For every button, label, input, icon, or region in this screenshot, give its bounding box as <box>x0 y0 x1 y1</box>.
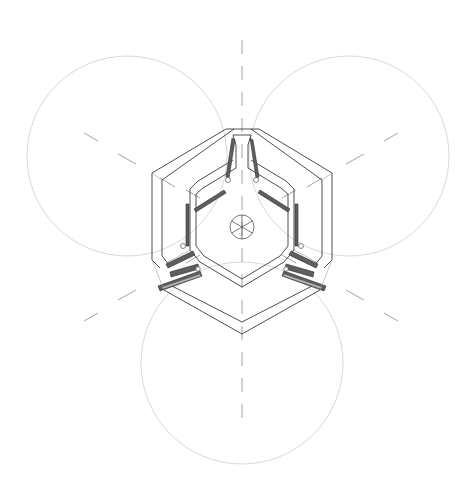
inner-frame-left <box>162 129 234 266</box>
corner-joint-ul <box>152 173 162 180</box>
axis-tick-lower-left-2 <box>118 290 136 300</box>
hinge-lower-right <box>284 267 289 272</box>
axis-tick-upper-right-1 <box>384 133 398 141</box>
panel-ll-1 <box>166 251 195 268</box>
corner-joint-ur <box>322 173 332 180</box>
hinge-top-left <box>226 178 231 183</box>
panel-right-vert <box>295 204 298 246</box>
swing-circles <box>27 56 449 464</box>
plan-drawing <box>0 0 476 485</box>
axis-tick-lower-right-2 <box>346 290 364 300</box>
axis-tick-lower-right-1 <box>384 313 398 321</box>
panel-lr-3-face <box>283 274 322 289</box>
panel-ul-diag <box>194 190 226 212</box>
connector-lr-outer <box>320 260 332 290</box>
axis-tick-upper-right-3 <box>307 178 322 187</box>
axis-tick-upper-right-2 <box>346 154 364 164</box>
panel-ll-3-face <box>162 274 201 289</box>
panel-lr-1 <box>289 251 318 268</box>
axis-tick-inner-ul <box>186 190 200 198</box>
hinge-lower-left <box>196 267 201 272</box>
hinge-left <box>181 244 186 249</box>
center-hub <box>230 215 254 239</box>
panel-ur-diag <box>258 190 290 212</box>
axis-tick-lower-left-1 <box>84 313 98 321</box>
axis-tick-upper-left-1 <box>84 133 98 141</box>
center-axes <box>84 40 398 420</box>
hinge-right <box>299 244 304 249</box>
swing-circle-left <box>27 56 227 256</box>
drawing-canvas <box>0 0 476 485</box>
panel-left-vert <box>186 204 189 246</box>
inner-frame-right <box>251 129 322 266</box>
axis-tick-upper-left-2 <box>118 154 136 164</box>
swing-circle-right <box>249 56 449 256</box>
connector-ll-outer <box>152 260 164 290</box>
hinge-top-right <box>254 178 259 183</box>
wall-panels <box>158 138 326 291</box>
